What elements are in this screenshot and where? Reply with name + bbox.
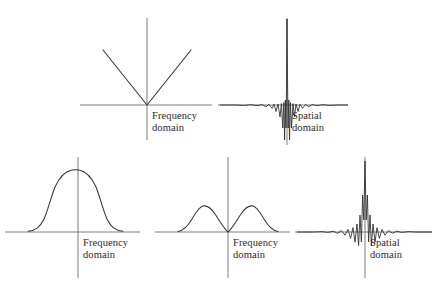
panel-bottom-right: Spatial domain: [292, 145, 437, 290]
label-line-1: Frequency: [152, 110, 197, 122]
panel-label-top-left: Frequency domain: [152, 110, 197, 133]
ramp-impulse-response-curve: [220, 19, 348, 140]
figure-root: Frequency domain Spatial domain Frequenc…: [0, 0, 437, 290]
panel-bottom-left: Frequency domain: [0, 145, 150, 290]
label-line-1: Frequency: [233, 237, 278, 249]
windowed-ramp-left-lobe-curve: [178, 206, 228, 232]
label-line-2: domain: [83, 249, 128, 261]
label-line-1: Spatial: [292, 110, 324, 122]
label-line-1: Spatial: [370, 237, 402, 249]
label-line-2: domain: [233, 249, 278, 261]
panel-label-bottom-right: Spatial domain: [370, 237, 402, 260]
panel-label-bottom-middle: Frequency domain: [233, 237, 278, 260]
gaussian-window-curve: [28, 170, 123, 232]
panel-label-top-right: Spatial domain: [292, 110, 324, 133]
windowed-ramp-right-lobe-curve: [228, 206, 278, 232]
label-line-2: domain: [370, 249, 402, 261]
label-line-2: domain: [152, 122, 197, 134]
label-line-2: domain: [292, 122, 324, 134]
panel-top-right: Spatial domain: [218, 0, 437, 145]
panel-bottom-middle: Frequency domain: [150, 145, 295, 290]
panel-top-left: Frequency domain: [0, 0, 220, 145]
windowed-ramp-impulse-response-curve: [297, 161, 432, 246]
panel-label-bottom-left: Frequency domain: [83, 237, 128, 260]
label-line-1: Frequency: [83, 237, 128, 249]
